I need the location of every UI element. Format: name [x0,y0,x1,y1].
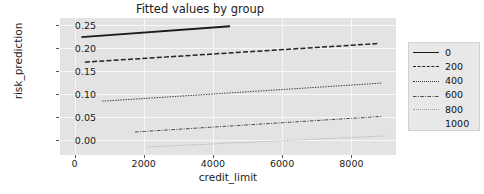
x-tick-label-2000: 2000 [114,158,174,169]
x-tick-mark-6000 [282,155,283,158]
x-tick-label-0: 0 [45,158,105,169]
legend-item-600[interactable]: 600 [409,88,479,103]
plot-area [60,18,396,155]
legend-swatch-200 [413,60,439,72]
legend-item-800[interactable]: 800 [409,102,479,117]
y-tick-label-0.00: 0.00 [36,136,96,145]
legend-label-600: 600 [445,89,463,100]
y-tick-mark-0.25 [56,25,59,26]
y-tick-mark-0.15 [56,71,59,72]
y-tick-label-0.20: 0.20 [36,44,96,53]
y-tick-mark-0.05 [56,117,59,118]
series-line-400 [102,83,382,101]
series-line-200 [85,44,379,63]
legend-label-400: 400 [445,75,463,86]
legend-label-800: 800 [445,104,463,115]
legend-label-200: 200 [445,61,463,72]
series-lines [60,18,396,155]
chart-title: Fitted values by group [0,2,400,16]
y-tick-label-0.15: 0.15 [36,67,96,76]
legend-swatch-600 [413,89,439,101]
legend-swatch-800 [413,103,439,115]
y-tick-mark-0.00 [56,140,59,141]
x-tick-mark-8000 [351,155,352,158]
legend-swatch-0 [413,46,439,58]
legend-item-400[interactable]: 400 [409,73,479,88]
y-tick-mark-0.10 [56,94,59,95]
series-line-600 [135,116,382,132]
x-tick-label-4000: 4000 [183,158,243,169]
legend-swatch-400 [413,75,439,87]
legend-item-1000[interactable]: 1000 [409,116,479,131]
series-line-0 [81,26,230,37]
legend: 02004006008001000 [408,42,480,131]
legend-swatch-1000 [413,117,439,129]
x-tick-mark-4000 [213,155,214,158]
legend-label-0: 0 [445,47,451,58]
legend-item-200[interactable]: 200 [409,59,479,74]
y-tick-label-0.05: 0.05 [36,113,96,122]
x-axis-label: credit_limit [60,171,396,183]
y-tick-label-0.25: 0.25 [36,21,96,30]
legend-item-0[interactable]: 0 [409,45,479,60]
x-tick-mark-0 [75,155,76,158]
y-tick-label-0.10: 0.10 [36,90,96,99]
x-tick-label-6000: 6000 [252,158,312,169]
figure-canvas: Fitted values by group risk_prediction c… [0,0,484,194]
x-tick-mark-2000 [144,155,145,158]
x-tick-label-8000: 8000 [321,158,381,169]
legend-label-1000: 1000 [445,118,469,129]
y-axis-label: risk_prediction [12,0,24,126]
series-line-800 [147,136,386,147]
y-tick-mark-0.20 [56,48,59,49]
